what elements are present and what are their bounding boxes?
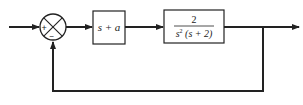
plant-numerator: 2 (192, 14, 197, 25)
controller-transfer-function: s + a (98, 21, 121, 33)
summing-junction: + − (40, 14, 66, 41)
minus-sign: − (50, 32, 55, 41)
plant-block: 2 s2 (s + 2) (164, 10, 224, 43)
feedback-path (53, 27, 263, 91)
block-diagram: + − s + a 2 s2 (s + 2) (0, 0, 303, 105)
plus-sign: + (42, 23, 47, 33)
controller-block: s + a (93, 11, 125, 44)
